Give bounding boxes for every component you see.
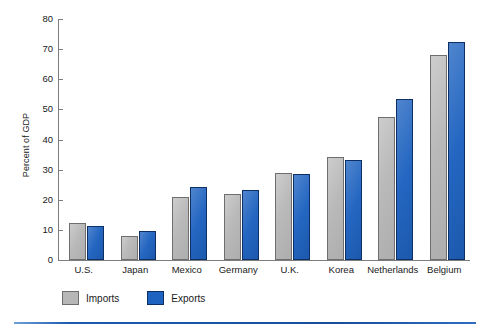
- plot-area: 01020304050607080 U.S.JapanMexicoGermany…: [58, 19, 470, 260]
- y-tick-mark: [59, 79, 63, 80]
- y-tick-label: 40: [42, 135, 53, 145]
- x-label-netherlands: Netherlands: [367, 264, 419, 275]
- y-tick-mark: [59, 49, 63, 50]
- x-label-mexico: Mexico: [161, 264, 213, 275]
- y-tick-mark: [59, 230, 63, 231]
- bar-exports-3: [242, 190, 259, 260]
- y-tick-label: 80: [42, 14, 53, 24]
- bar-exports-0: [87, 226, 104, 260]
- y-tick-mark: [59, 140, 63, 141]
- bar-exports-6: [396, 99, 413, 260]
- bar-group: [172, 19, 207, 260]
- chart-figure: Percent of GDP 01020304050607080 U.S.Jap…: [0, 0, 483, 330]
- x-label-germany: Germany: [213, 264, 265, 275]
- bar-group: [69, 19, 104, 260]
- x-label-us: U.S.: [58, 264, 110, 275]
- legend-label-exports: Exports: [171, 293, 205, 304]
- bar-exports-5: [345, 160, 362, 260]
- x-label-korea: Korea: [316, 264, 368, 275]
- y-tick-label: 20: [42, 195, 53, 205]
- bar-group: [121, 19, 156, 260]
- bar-imports-2: [172, 197, 189, 260]
- x-label-japan: Japan: [110, 264, 162, 275]
- x-label-belgium: Belgium: [419, 264, 471, 275]
- y-axis-title: Percent of GDP: [21, 85, 31, 205]
- bar-exports-2: [190, 187, 207, 260]
- legend-label-imports: Imports: [86, 293, 119, 304]
- bar-exports-4: [293, 174, 310, 260]
- bar-group: [430, 19, 465, 260]
- footer-rule: [14, 322, 476, 324]
- chart-legend: Imports Exports: [62, 291, 205, 305]
- x-axis-line: [58, 260, 470, 261]
- bar-imports-3: [224, 194, 241, 260]
- y-tick-label: 60: [42, 75, 53, 85]
- bar-imports-7: [430, 55, 447, 260]
- bar-exports-1: [139, 231, 156, 260]
- y-tick-mark: [59, 19, 63, 20]
- bar-imports-5: [327, 157, 344, 260]
- x-label-uk: U.K.: [264, 264, 316, 275]
- y-tick-mark: [59, 260, 63, 261]
- legend-swatch-exports-icon: [147, 291, 164, 305]
- y-tick-mark: [59, 200, 63, 201]
- bar-imports-1: [121, 236, 138, 260]
- bar-group: [275, 19, 310, 260]
- legend-item-imports: Imports: [62, 291, 119, 305]
- bar-imports-6: [378, 117, 395, 260]
- bar-imports-4: [275, 173, 292, 260]
- y-tick-label: 30: [42, 165, 53, 175]
- y-tick-label: 10: [42, 225, 53, 235]
- bar-group: [327, 19, 362, 260]
- legend-swatch-imports-icon: [62, 291, 79, 305]
- y-tick-label: 70: [42, 44, 53, 54]
- bar-group: [378, 19, 413, 260]
- legend-item-exports: Exports: [147, 291, 205, 305]
- y-tick-mark: [59, 170, 63, 171]
- bar-imports-0: [69, 223, 86, 260]
- bar-group: [224, 19, 259, 260]
- y-tick-label: 0: [48, 255, 53, 265]
- y-tick-label: 50: [42, 105, 53, 115]
- y-tick-mark: [59, 109, 63, 110]
- bar-exports-7: [448, 42, 465, 260]
